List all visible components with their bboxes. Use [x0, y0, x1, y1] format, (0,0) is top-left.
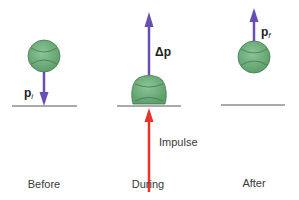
panel-during: Δp Impulse During [117, 12, 198, 192]
ball-icon [238, 41, 270, 73]
arrowhead-up-icon [145, 108, 154, 122]
caption-before: Before [28, 178, 60, 190]
arrowhead-up-icon [250, 8, 259, 22]
impulse-label: Impulse [159, 136, 198, 148]
arrowhead-down-icon [40, 92, 49, 106]
panel-before: pi Before [12, 40, 77, 190]
caption-during: During [132, 178, 164, 190]
impulse-momentum-diagram: pi Before Δp Impulse During pf After [0, 0, 299, 200]
ball-icon [28, 40, 60, 72]
momentum-initial-label: pi [24, 86, 33, 101]
caption-after: After [242, 177, 266, 189]
arrowhead-up-icon [145, 12, 154, 27]
momentum-final-label: pf [261, 25, 271, 40]
ball-compressed-icon [132, 76, 166, 105]
delta-momentum-label: Δp [155, 45, 171, 59]
panel-after: pf After [221, 8, 285, 189]
